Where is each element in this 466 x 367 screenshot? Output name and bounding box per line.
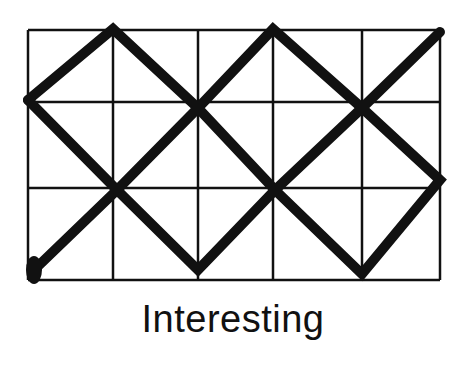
zigzag-path	[28, 29, 440, 274]
caption-label: Interesting	[0, 298, 466, 341]
start-marker-dot	[26, 256, 42, 284]
